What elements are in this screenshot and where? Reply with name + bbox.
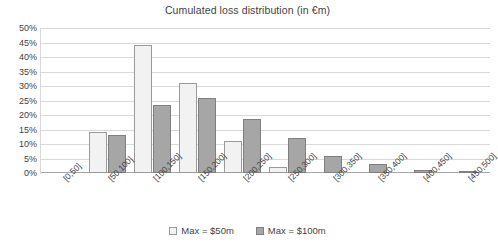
bar-group — [130, 28, 175, 173]
x-label-cell: [300,350] — [310, 174, 355, 220]
bar-group — [220, 28, 265, 173]
x-label-cell: [400,450] — [400, 174, 445, 220]
bar-group — [355, 28, 400, 173]
bar[interactable] — [134, 45, 152, 173]
x-label-cell: [350,400] — [355, 174, 400, 220]
x-label-cell: [150,200] — [175, 174, 220, 220]
bar-group — [310, 28, 355, 173]
bar-group — [445, 28, 490, 173]
bar-group — [175, 28, 220, 173]
bar[interactable] — [179, 83, 197, 173]
x-axis-labels: [0,50][50,100][100,150][150,200][200,250… — [40, 174, 490, 220]
legend-item[interactable]: Max = $50m — [169, 226, 234, 236]
x-label-cell: [0,50] — [40, 174, 85, 220]
legend-swatch-icon — [256, 227, 264, 235]
y-tick-label: 50% — [0, 24, 37, 33]
x-label-cell: [100,150] — [130, 174, 175, 220]
y-tick-label: 0% — [0, 169, 37, 178]
x-label-cell: [200,250] — [220, 174, 265, 220]
x-label-cell: [50,100] — [85, 174, 130, 220]
bar-group — [265, 28, 310, 173]
y-tick-label: 10% — [0, 140, 37, 149]
y-tick-label: 5% — [0, 155, 37, 164]
legend-label: Max = $50m — [181, 226, 234, 236]
x-label-cell: [250,300] — [265, 174, 310, 220]
y-tick-label: 45% — [0, 39, 37, 48]
y-tick-label: 40% — [0, 53, 37, 62]
legend-swatch-icon — [169, 227, 177, 235]
bar[interactable] — [269, 167, 287, 173]
bar[interactable] — [89, 132, 107, 173]
y-tick-label: 30% — [0, 82, 37, 91]
bar-group — [40, 28, 85, 173]
legend-label: Max = $100m — [268, 226, 326, 236]
x-label-cell: [450,500] — [445, 174, 490, 220]
bar-group — [85, 28, 130, 173]
legend-item[interactable]: Max = $100m — [256, 226, 326, 236]
y-tick-label: 35% — [0, 68, 37, 77]
y-tick-label: 15% — [0, 126, 37, 135]
bar-group — [400, 28, 445, 173]
y-tick-label: 20% — [0, 111, 37, 120]
y-tick-label: 25% — [0, 97, 37, 106]
chart-title: Cumulated loss distribution (in €m) — [0, 4, 495, 16]
chart-legend: Max = $50mMax = $100m — [0, 226, 495, 236]
